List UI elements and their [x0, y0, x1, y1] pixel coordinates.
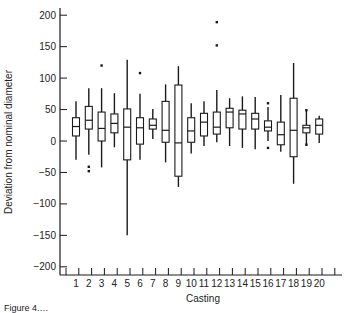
outlier-point [267, 102, 269, 104]
box-casting-3 [98, 64, 105, 167]
box-casting-10 [188, 103, 195, 153]
outlier-point [305, 144, 307, 146]
x-tick-label: 2 [86, 278, 92, 289]
x-tick-label: 3 [99, 278, 105, 289]
y-axis: 200150100500−50−100−150−200 [33, 8, 67, 275]
iqr-box [213, 112, 220, 134]
iqr-box [201, 113, 208, 136]
outlier-point [100, 64, 102, 66]
iqr-box [98, 112, 105, 141]
box-casting-20 [316, 116, 323, 143]
box-casting-8 [162, 84, 169, 162]
box-casting-13 [226, 98, 233, 146]
iqr-box [124, 109, 131, 160]
boxplot-chart: 200150100500−50−100−150−200 123456789101… [0, 0, 344, 313]
box-casting-17 [277, 95, 284, 152]
outlier-point [139, 72, 141, 74]
y-tick-label: 150 [39, 41, 56, 52]
y-tick-label: 200 [39, 10, 56, 21]
x-tick-label: 16 [262, 278, 274, 289]
x-tick-label: 8 [163, 278, 169, 289]
outlier-point [267, 147, 269, 149]
box-casting-12 [213, 21, 220, 142]
x-tick-label: 11 [199, 278, 210, 289]
x-tick-label: 1 [73, 278, 79, 289]
x-tick-label: 13 [224, 278, 236, 289]
x-tick-label: 7 [150, 278, 156, 289]
iqr-box [303, 125, 310, 133]
outlier-point [216, 21, 218, 23]
x-tick-label: 6 [137, 278, 143, 289]
x-tick-label: 15 [250, 278, 262, 289]
y-tick-label: −50 [39, 167, 56, 178]
box-casting-16 [265, 102, 272, 149]
box-casting-4 [111, 93, 118, 147]
iqr-box [226, 108, 233, 127]
box-casting-5 [124, 60, 131, 235]
outlier-point [88, 166, 90, 168]
box-casting-14 [239, 96, 246, 148]
iqr-box [265, 121, 272, 131]
iqr-box [290, 98, 297, 156]
y-tick-label: 0 [50, 136, 56, 147]
box-casting-7 [149, 109, 156, 139]
iqr-box [137, 118, 144, 144]
box-casting-15 [252, 97, 259, 149]
iqr-box [162, 101, 169, 142]
x-axis-label: Casting [186, 293, 220, 304]
box-casting-19 [303, 109, 310, 146]
x-tick-label: 20 [314, 278, 326, 289]
box-casting-11 [201, 101, 208, 146]
box-casting-6 [137, 72, 144, 160]
iqr-box [239, 110, 246, 129]
x-tick-label: 5 [124, 278, 130, 289]
y-tick-label: 50 [45, 104, 57, 115]
y-tick-label: −200 [33, 261, 56, 272]
x-axis: 1234567891011121314151617181920 [60, 268, 342, 289]
iqr-box [188, 118, 195, 143]
y-tick-label: −150 [33, 230, 56, 241]
x-tick-label: 19 [301, 278, 313, 289]
box-casting-18 [290, 63, 297, 184]
x-tick-label: 17 [275, 278, 287, 289]
box-series [73, 21, 323, 235]
x-tick-label: 14 [237, 278, 249, 289]
iqr-box [85, 106, 92, 129]
y-axis-label: Deviation from nominal diameter [3, 69, 14, 214]
y-tick-label: 100 [39, 73, 56, 84]
x-tick-label: 9 [176, 278, 182, 289]
x-tick-label: 18 [288, 278, 300, 289]
iqr-box [175, 85, 182, 176]
outlier-point [216, 44, 218, 46]
figure-caption: Figure 4.… [4, 303, 49, 313]
x-tick-label: 12 [211, 278, 223, 289]
box-casting-1 [73, 101, 80, 159]
y-tick-label: −100 [33, 198, 56, 209]
iqr-box [149, 119, 156, 129]
iqr-box [252, 113, 259, 129]
box-casting-9 [175, 66, 182, 187]
outlier-point [305, 109, 307, 111]
iqr-box [277, 122, 284, 145]
outlier-point [88, 170, 90, 172]
x-tick-label: 10 [186, 278, 198, 289]
box-casting-2 [85, 88, 92, 172]
iqr-box [316, 119, 323, 134]
x-tick-label: 4 [112, 278, 118, 289]
